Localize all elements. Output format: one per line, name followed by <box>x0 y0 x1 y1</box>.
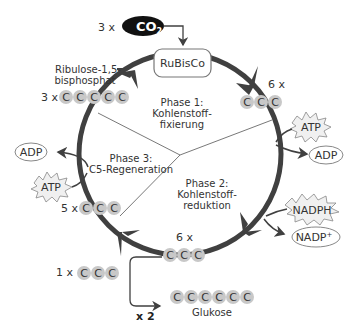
co2-count: 3 x <box>98 21 115 34</box>
glucose-branch-arrow <box>130 257 162 306</box>
adp-out-arrow-left <box>58 152 88 167</box>
phase1-count: 6 x <box>268 78 285 91</box>
svg-text:C: C <box>243 96 251 109</box>
rubisco-label: RuBisCo <box>160 57 205 70</box>
svg-text:C: C <box>173 291 181 304</box>
phase1-carbons: C C C <box>240 95 282 109</box>
atp-left-label: ATP <box>41 181 61 194</box>
svg-text:C: C <box>104 91 112 104</box>
nadp-out-arrow <box>264 219 284 234</box>
phase3-count: 5 x <box>61 202 78 215</box>
svg-text:C: C <box>229 291 237 304</box>
svg-text:C: C <box>257 96 265 109</box>
svg-text:C: C <box>194 249 202 262</box>
multiplier-label: x 2 <box>136 310 155 323</box>
phase2-title: Phase 2: <box>186 178 229 189</box>
phase1-title: Phase 1: <box>161 97 204 108</box>
svg-text:C: C <box>90 91 98 104</box>
ribulose-carbons: C C C C C <box>59 90 129 104</box>
output-count: 1 x <box>56 266 73 279</box>
co2-arrow <box>164 26 183 45</box>
svg-text:C: C <box>215 291 223 304</box>
svg-text:C: C <box>180 249 188 262</box>
adp-right-label: ADP <box>315 149 338 162</box>
svg-text:C: C <box>76 91 84 104</box>
phase2-line2: Kohlenstoff- <box>177 189 237 200</box>
ribulose-count: 3 x <box>41 91 58 104</box>
svg-text:C: C <box>62 91 70 104</box>
atp-right-label: ATP <box>301 121 321 134</box>
svg-text:C: C <box>118 91 126 104</box>
ribulose-name-line1: Ribulose-1,5- <box>55 64 121 75</box>
svg-text:C: C <box>187 291 195 304</box>
phase3-carbons: C C C <box>79 201 121 215</box>
phase2-count: 6 x <box>176 231 193 244</box>
adp-left-label: ADP <box>20 146 43 159</box>
calvin-cycle-diagram: 3 x CO2 RuBisCo Ribulose-1,5- bisphospha… <box>0 0 359 330</box>
svg-text:C: C <box>201 291 209 304</box>
svg-text:C: C <box>96 202 104 215</box>
phase3-line2: C5-Regeneration <box>89 164 173 175</box>
nadph-label: NADPH <box>292 204 331 217</box>
phase3-title: Phase 3: <box>110 153 153 164</box>
glucose-carbons: C C C C C C <box>170 290 254 304</box>
svg-text:C: C <box>94 267 102 280</box>
output-carbons: C C C <box>77 266 119 280</box>
phase1-line2: Kohlenstoff- <box>152 108 212 119</box>
ribulose-name-line2: bisphosphat <box>54 75 115 86</box>
svg-text:C: C <box>166 249 174 262</box>
svg-text:C: C <box>271 96 279 109</box>
phase2-line3: reduktion <box>183 200 231 211</box>
glucose-label: Glukose <box>192 307 232 318</box>
svg-text:C: C <box>243 291 251 304</box>
svg-text:C: C <box>82 202 90 215</box>
nadph-in-arrow <box>266 209 287 216</box>
svg-text:C: C <box>108 267 116 280</box>
svg-text:C: C <box>110 202 118 215</box>
phase1-line3: fixierung <box>160 119 204 130</box>
phase2-carbons: C C C <box>163 248 205 262</box>
svg-text:C: C <box>80 267 88 280</box>
cycle-arrowhead-top-left <box>118 70 138 89</box>
